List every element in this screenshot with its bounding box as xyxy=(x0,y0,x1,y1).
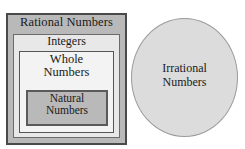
set-natural-numbers: Natural Numbers xyxy=(26,90,108,126)
set-label-whole-numbers: Whole Numbers xyxy=(20,53,113,79)
number-sets-diagram: Rational Numbers Integers Whole Numbers … xyxy=(0,0,245,149)
set-label-integers: Integers xyxy=(14,35,119,47)
set-label-rational-numbers: Rational Numbers xyxy=(8,16,125,29)
set-irrational-numbers: Irrational Numbers xyxy=(131,18,238,137)
set-label-natural-numbers: Natural Numbers xyxy=(28,93,106,117)
set-label-irrational-numbers: Irrational Numbers xyxy=(132,61,237,89)
